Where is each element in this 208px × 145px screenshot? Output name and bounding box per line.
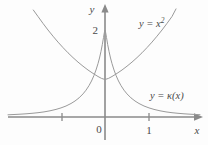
x-tick-label-one: 1 bbox=[146, 124, 152, 136]
x-axis-label: x bbox=[194, 124, 200, 136]
parabola-label-text: y = x bbox=[138, 18, 161, 29]
y-axis-label: y bbox=[89, 3, 95, 15]
parabola-label: y = x2 bbox=[138, 16, 165, 29]
graph-svg: y x 2 0 1 y = x2 y = κ(x) bbox=[0, 0, 208, 145]
math-figure: y x 2 0 1 y = x2 y = κ(x) bbox=[0, 0, 208, 145]
kappa-curve bbox=[8, 30, 200, 115]
y-axis-arrowhead bbox=[101, 4, 108, 13]
y-tick-label-two: 2 bbox=[93, 24, 99, 36]
origin-label: 0 bbox=[96, 123, 102, 135]
kappa-label: y = κ(x) bbox=[149, 90, 184, 102]
parabola-label-exponent: 2 bbox=[161, 16, 165, 25]
